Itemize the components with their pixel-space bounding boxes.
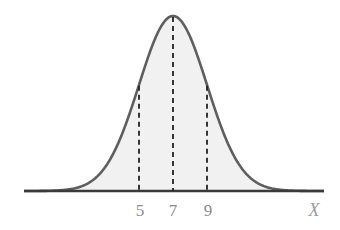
tick-label-5: 5 xyxy=(136,201,145,220)
tick-label-9: 9 xyxy=(204,201,213,220)
normal-curve-chart: 5 7 9 X xyxy=(0,0,340,230)
tick-label-7: 7 xyxy=(169,201,178,220)
x-axis-label: X xyxy=(308,200,321,220)
shaded-area xyxy=(24,16,324,191)
